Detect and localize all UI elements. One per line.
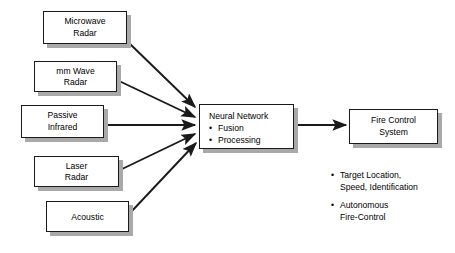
- bullet-dot-icon: •: [331, 200, 334, 212]
- capability-autonomous-line1: Autonomous: [340, 200, 451, 212]
- neural-network-bullet-fusion-label: Fusion: [218, 123, 244, 133]
- node-fire-control-system[interactable]: Fire Control System: [349, 109, 438, 144]
- node-microwave-radar-line1: Microwave: [44, 16, 126, 28]
- bullet-dot-icon: •: [331, 170, 334, 182]
- node-laser-radar-line1: Laser: [35, 161, 118, 173]
- neural-network-bullet-processing-label: Processing: [218, 135, 261, 145]
- node-laser-radar-line2: Radar: [35, 172, 118, 184]
- arrow-acoustic-to-nn: [131, 143, 196, 212]
- arrow-microwave-to-nn: [128, 42, 195, 107]
- node-mm-wave-radar-line2: Radar: [35, 77, 116, 89]
- capability-item-autonomous-fire-control: • Autonomous Fire-Control: [331, 200, 451, 223]
- bullet-dot-icon: •: [209, 122, 218, 134]
- capability-target-location-line1: Target Location,: [340, 170, 451, 182]
- node-fire-control-system-line2: System: [350, 127, 437, 139]
- node-mm-wave-radar-line1: mm Wave: [35, 66, 116, 78]
- neural-network-bullets: •Fusion •Processing: [209, 122, 261, 146]
- node-acoustic[interactable]: Acoustic: [46, 201, 129, 232]
- arrow-mmwave-to-nn: [117, 80, 195, 117]
- node-mm-wave-radar[interactable]: mm Wave Radar: [34, 61, 117, 92]
- neural-network-bullet-processing: •Processing: [209, 134, 261, 146]
- capability-autonomous-line2: Fire-Control: [340, 212, 451, 224]
- capability-target-location-line2: Speed, Identification: [340, 182, 451, 194]
- node-passive-infrared-line1: Passive: [22, 110, 103, 122]
- diagram-canvas: Microwave Radar mm Wave Radar Passive In…: [0, 0, 455, 253]
- node-neural-network[interactable]: Neural Network •Fusion •Processing: [199, 104, 294, 149]
- node-microwave-radar[interactable]: Microwave Radar: [43, 11, 127, 44]
- bullet-dot-icon: •: [209, 134, 218, 146]
- node-passive-infrared[interactable]: Passive Infrared: [21, 105, 104, 138]
- capability-item-target-location: • Target Location, Speed, Identification: [331, 170, 451, 193]
- neural-network-bullet-fusion: •Fusion: [209, 122, 261, 134]
- node-acoustic-line1: Acoustic: [47, 212, 128, 224]
- output-capabilities-list: • Target Location, Speed, Identification…: [331, 170, 451, 230]
- arrow-laser-to-nn: [120, 134, 195, 170]
- node-fire-control-system-line1: Fire Control: [350, 115, 437, 127]
- node-passive-infrared-line2: Infrared: [22, 122, 103, 134]
- node-laser-radar[interactable]: Laser Radar: [34, 156, 119, 187]
- neural-network-title: Neural Network: [209, 111, 268, 123]
- node-microwave-radar-line2: Radar: [44, 28, 126, 40]
